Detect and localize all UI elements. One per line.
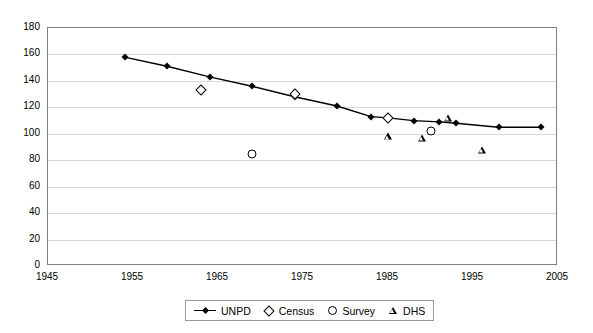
legend-label: Census <box>279 305 315 317</box>
chart-container: 020406080100120140160180 194519551965197… <box>0 0 593 333</box>
y-tick-label: 120 <box>2 101 40 111</box>
open-triangle-icon <box>388 306 398 316</box>
x-tick-label: 1985 <box>365 272 409 282</box>
legend-entry-survey: Survey <box>327 305 375 317</box>
y-tick-label: 160 <box>2 48 40 58</box>
y-tick-label: 80 <box>2 154 40 164</box>
y-tick-label: 0 <box>2 260 40 270</box>
y-tick-label: 140 <box>2 75 40 85</box>
x-tick-label: 1945 <box>25 272 69 282</box>
legend-label: UNPD <box>221 305 251 317</box>
legend-label: Survey <box>342 305 375 317</box>
open-circle-icon <box>327 306 337 316</box>
data-point-dhs <box>384 133 392 140</box>
series-line-unpd <box>125 57 542 127</box>
line-diamond-icon <box>194 306 216 316</box>
x-tick-label: 1995 <box>450 272 494 282</box>
x-tick-label: 1975 <box>280 272 324 282</box>
legend-label: DHS <box>403 305 425 317</box>
data-point-dhs <box>418 134 426 141</box>
x-tick-label: 1955 <box>110 272 154 282</box>
legend-entry-census: Census <box>264 305 315 317</box>
legend-entry-dhs: DHS <box>388 305 425 317</box>
data-point-survey <box>426 127 435 136</box>
y-tick-label: 20 <box>2 234 40 244</box>
chart-legend: UNPDCensusSurveyDHS <box>185 300 434 321</box>
y-tick-label: 60 <box>2 181 40 191</box>
data-point-dhs <box>444 114 452 121</box>
y-tick-label: 100 <box>2 128 40 138</box>
data-point-dhs <box>478 146 486 153</box>
legend-entry-unpd: UNPD <box>194 305 251 317</box>
y-tick-label: 180 <box>2 22 40 32</box>
plot-area <box>47 27 557 265</box>
x-tick-label: 2005 <box>535 272 579 282</box>
open-diamond-icon <box>264 306 274 316</box>
x-tick-label: 1965 <box>195 272 239 282</box>
y-tick-label: 40 <box>2 207 40 217</box>
data-point-survey <box>248 149 257 158</box>
